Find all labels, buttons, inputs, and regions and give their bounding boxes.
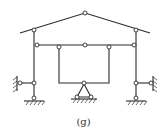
hinge <box>134 81 138 85</box>
hinge <box>83 43 87 47</box>
roof-members <box>20 13 150 33</box>
hinge <box>32 96 36 100</box>
hinge <box>89 95 93 99</box>
hinge <box>57 45 61 49</box>
hinge <box>32 28 36 32</box>
hinge <box>132 43 136 47</box>
hinge <box>149 81 153 85</box>
hinge <box>18 81 22 85</box>
figure-caption: (g) <box>0 116 167 127</box>
hinge <box>35 43 39 47</box>
hinge <box>83 11 87 15</box>
hinge <box>32 81 36 85</box>
inner-frame <box>59 47 109 83</box>
hinge <box>134 96 138 100</box>
hinge <box>107 45 111 49</box>
hinge <box>75 95 79 99</box>
hinge <box>82 81 86 85</box>
hinge <box>134 28 138 32</box>
center-support <box>77 84 91 97</box>
